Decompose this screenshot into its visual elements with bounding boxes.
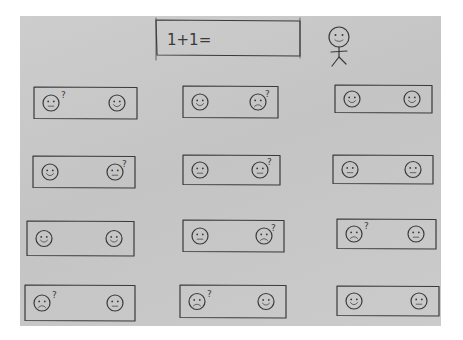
left-face-icon-happy (192, 94, 208, 110)
left-face-icon-confused (192, 228, 208, 244)
right-face-icon-confused (252, 162, 268, 178)
stick-figure-icon (329, 27, 349, 66)
answer-card[interactable] (27, 221, 134, 256)
avatar-smile (335, 40, 343, 42)
card-border (337, 286, 439, 316)
question-text: 1+1= (167, 31, 211, 49)
answer-card[interactable]: ? (183, 220, 284, 252)
sketch-canvas: 1+1= ???????? (0, 0, 463, 340)
question-mark-icon: ? (122, 159, 127, 169)
avatar-arms (331, 51, 347, 52)
right-face-icon-confused (405, 162, 421, 178)
question-mark-icon: ? (364, 221, 369, 231)
answer-card[interactable]: ? (183, 155, 280, 185)
left-face-icon-sad (189, 294, 205, 310)
card-border (27, 221, 134, 256)
avatar-legs (332, 57, 346, 66)
answer-card[interactable] (333, 155, 433, 184)
question-mark-icon: ? (267, 157, 272, 167)
answer-card[interactable]: ? (337, 219, 436, 249)
answer-card[interactable] (337, 286, 439, 316)
right-face-icon-sad (250, 94, 266, 110)
right-face-icon-happy (258, 294, 274, 310)
left-face-icon-confused (192, 162, 208, 178)
answer-card[interactable] (335, 85, 432, 113)
avatar-eye-right (342, 34, 344, 36)
card-border (335, 85, 432, 113)
answer-card[interactable]: ? (33, 156, 135, 188)
right-face-icon-happy (106, 231, 122, 247)
right-face-icon-confused (408, 226, 424, 242)
card-border (183, 86, 278, 118)
right-face-icon-happy (404, 91, 420, 107)
answer-card[interactable]: ? (183, 86, 278, 118)
answer-card[interactable]: ? (34, 87, 137, 119)
right-face-icon-confused (107, 295, 123, 311)
question-mark-icon: ? (271, 223, 276, 233)
left-face-icon-happy (36, 231, 52, 247)
card-border (183, 220, 284, 252)
card-border (33, 156, 135, 188)
card-border (337, 219, 436, 249)
card-border (183, 155, 280, 185)
left-face-icon-sad (346, 226, 362, 242)
card-border (25, 285, 135, 321)
avatar-eye-left (335, 34, 337, 36)
right-face-icon-confused (411, 293, 427, 309)
question-mark-icon: ? (61, 90, 66, 100)
question-box[interactable]: 1+1= (156, 18, 300, 60)
answer-cards: ???????? (25, 85, 439, 321)
question-mark-icon: ? (265, 89, 270, 99)
left-face-icon-happy (346, 293, 362, 309)
right-face-icon-sad (256, 228, 272, 244)
card-border (34, 87, 137, 119)
card-border (333, 155, 433, 184)
left-face-icon-happy (42, 164, 58, 180)
question-mark-icon: ? (52, 290, 57, 300)
right-face-icon-confused (107, 164, 123, 180)
right-face-icon-happy (109, 95, 125, 111)
answer-card[interactable]: ? (25, 285, 135, 321)
card-border (180, 285, 286, 318)
left-face-icon-happy (344, 91, 360, 107)
question-mark-icon: ? (207, 289, 212, 299)
left-face-icon-confused (342, 162, 358, 178)
left-face-icon-confused (43, 95, 59, 111)
answer-card[interactable]: ? (180, 285, 286, 318)
left-face-icon-sad (34, 295, 50, 311)
